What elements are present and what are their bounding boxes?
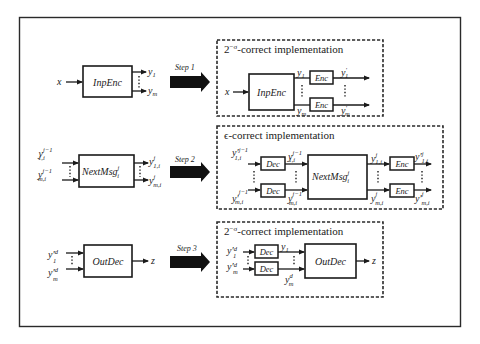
- impl2-out-m: y′jm,i: [414, 190, 430, 206]
- step-1-label: Step 1: [175, 63, 195, 72]
- step-3-arrow-shape: [170, 252, 210, 272]
- output-z-label: z: [150, 255, 155, 266]
- impl-out-y1-prime: y′1: [340, 66, 348, 79]
- step-2-arrow: Step 2: [170, 155, 210, 182]
- output-y1-label: y1: [147, 66, 156, 78]
- input-y1i-label: yj−11,i: [38, 146, 53, 161]
- output-ymi-label: yjm,i: [148, 173, 162, 188]
- dec-block-m-label: Dec: [265, 186, 280, 196]
- dec-block-3-1-label: Dec: [259, 247, 274, 257]
- impl3-mid-m: ydm: [284, 272, 294, 287]
- step-3-label: Step 3: [177, 244, 197, 253]
- input-ymd-label: y′dm: [47, 266, 59, 282]
- nextmsg-block-label: NextMsgji: [81, 164, 120, 179]
- input-ymi-label: yj−1m,i: [37, 167, 52, 182]
- row-2-original: yj−11,i yj−1m,i NextMsgji yj1,i yjm,i: [37, 146, 161, 188]
- pipeline-diagram: x InpEnc y1 ym Step 1 2−σ-correct implem…: [0, 0, 480, 344]
- step-3-arrow: Step 3: [170, 244, 210, 272]
- impl2-mid-in-1: yj−11,i: [287, 149, 302, 163]
- impl2-mid-in-m: yj−1m,i: [287, 190, 302, 206]
- step-1-arrow: Step 1: [170, 63, 210, 92]
- impl3-output-z: z: [371, 255, 376, 266]
- dec-block-3-m-label: Dec: [259, 264, 274, 274]
- implementation-title-3: 2−σ-correct implementation: [224, 225, 344, 237]
- enc-block-2-1-label: Enc: [394, 159, 408, 169]
- enc-block-m-label: Enc: [314, 100, 328, 110]
- impl-mid-ym: ym: [296, 105, 306, 117]
- impl-inpenc-label: InpEnc: [256, 87, 286, 98]
- impl3-mid-1: y1: [280, 241, 289, 253]
- impl2-out-1: y′j1,i: [414, 150, 428, 164]
- step-2-arrow-shape: [170, 162, 210, 182]
- step-1-arrow-shape: [170, 72, 210, 92]
- impl-mid-y1: y1: [296, 67, 305, 79]
- implementation-title-1: 2−σ-correct implementation: [224, 43, 344, 55]
- step-2-label: Step 2: [175, 155, 195, 164]
- input-x-label: x: [56, 76, 62, 87]
- input-y1d-label: y′d1: [47, 248, 59, 264]
- impl3-outdec-label: OutDec: [315, 256, 347, 267]
- inpenc-block-label: InpEnc: [92, 77, 122, 88]
- impl2-nextmsg-label: NextMsgji: [311, 169, 350, 184]
- row-1-original: x InpEnc y1 ym: [56, 66, 157, 97]
- output-ym-label: ym: [147, 85, 157, 97]
- impl2-mid-out-m: yjm,i: [370, 190, 384, 206]
- impl2-input-m: y′j−1m,i: [231, 188, 248, 205]
- row-3-implementation: 2−σ-correct implementation y′d1 y′dm Dec…: [217, 222, 383, 297]
- impl2-mid-out-1: yj1,i: [370, 151, 382, 165]
- row-3-original: y′d1 y′dm OutDec z: [47, 245, 155, 282]
- enc-block-1-label: Enc: [314, 73, 328, 83]
- impl-input-x-label: x: [224, 86, 230, 97]
- impl-out-ym-prime: y′m: [340, 104, 350, 117]
- impl3-input-1: y′d1: [226, 245, 238, 259]
- row-2-implementation: ϵ-correct implementation y′j−11,i y′j−1m…: [217, 126, 443, 209]
- row-1-implementation: 2−σ-correct implementation x InpEnc y1 y…: [217, 40, 383, 117]
- dec-block-1-label: Dec: [265, 159, 280, 169]
- outdec-block-label: OutDec: [92, 256, 124, 267]
- impl2-input-1: y′j−11,i: [231, 146, 248, 161]
- impl3-input-m: y′dm: [226, 261, 238, 275]
- enc-block-2-m-label: Enc: [394, 186, 408, 196]
- output-y1i-label: yj1,i: [148, 154, 160, 169]
- implementation-title-2: ϵ-correct implementation: [224, 129, 335, 141]
